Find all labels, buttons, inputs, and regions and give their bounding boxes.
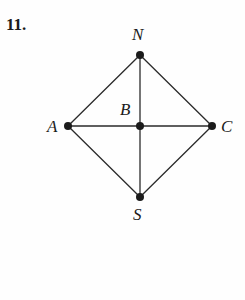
vertex-label-n: N xyxy=(132,26,143,43)
edge-c-n xyxy=(140,55,212,126)
vertex-c xyxy=(208,122,216,130)
figure-container: 11. N A C S B xyxy=(0,0,245,300)
edge-a-s xyxy=(68,126,140,197)
vertex-b xyxy=(136,122,144,130)
vertex-label-b: B xyxy=(120,101,130,118)
vertex-a xyxy=(64,122,72,130)
vertex-label-s: S xyxy=(133,206,142,223)
edge-s-c xyxy=(140,126,212,197)
vertex-n xyxy=(136,51,144,59)
vertex-s xyxy=(136,193,144,201)
graph-diagram xyxy=(0,0,245,300)
vertex-label-c: C xyxy=(221,118,232,135)
vertex-label-a: A xyxy=(47,118,57,135)
